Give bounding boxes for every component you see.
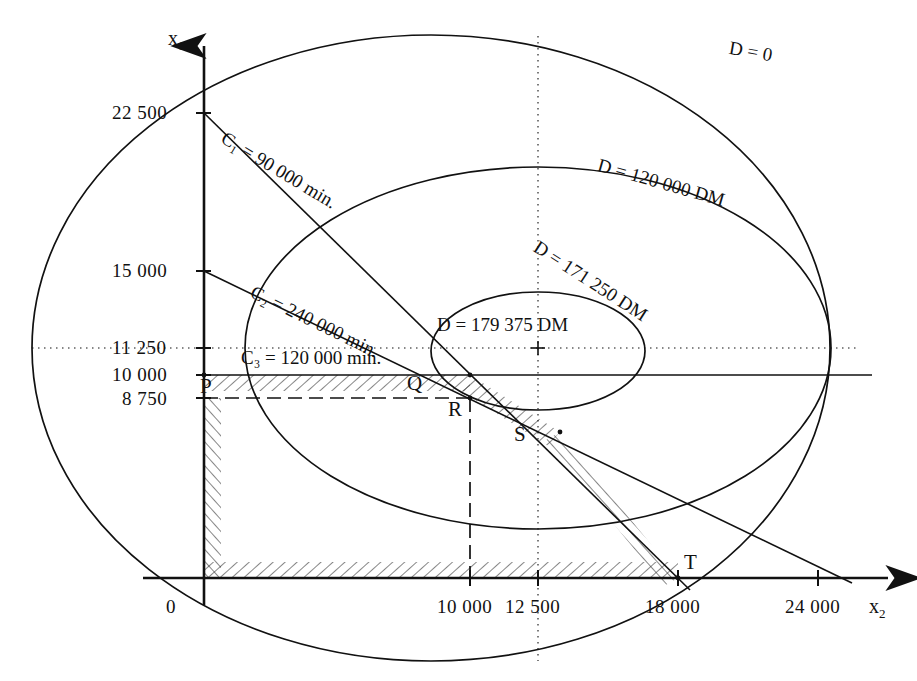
y-tick-15000: 15 000 <box>112 261 167 280</box>
y-tick-8750: 8 750 <box>122 389 167 408</box>
y-axis-label: x1 <box>168 28 185 52</box>
vertex-label-r: R <box>448 399 462 420</box>
vertex-label-s: S <box>514 424 526 445</box>
hatch-band-x-axis <box>205 562 678 577</box>
y-tick-22500: 22 500 <box>112 103 167 122</box>
x-tick-12500: 12 500 <box>505 597 560 616</box>
x-tick-24000: 24 000 <box>785 597 840 616</box>
y-tick-11250: 11 250 <box>112 338 167 357</box>
origin-label: 0 <box>166 597 176 616</box>
optimization-diagram: x1 x2 22 500 15 000 11 250 10 000 8 750 … <box>0 0 917 681</box>
hatch-band-y-axis <box>205 398 221 578</box>
vertex-label-q: Q <box>407 373 422 394</box>
vertex-markers <box>202 373 681 581</box>
constraint-label-c3: C₃ = 120 000 min. <box>241 348 381 367</box>
hatch-band-c3 <box>205 375 470 391</box>
vertex-label-p: P <box>200 376 212 397</box>
y-tick-10000: 10 000 <box>112 365 167 384</box>
x-tick-10000: 10 000 <box>437 597 492 616</box>
vertex-label-t: T <box>684 552 697 573</box>
x-tick-18000: 18 000 <box>645 597 700 616</box>
optimum-marker <box>531 341 545 355</box>
x-axis-label: x2 <box>869 596 886 620</box>
iso-label-d179375: D = 179 375 DM <box>437 315 568 334</box>
